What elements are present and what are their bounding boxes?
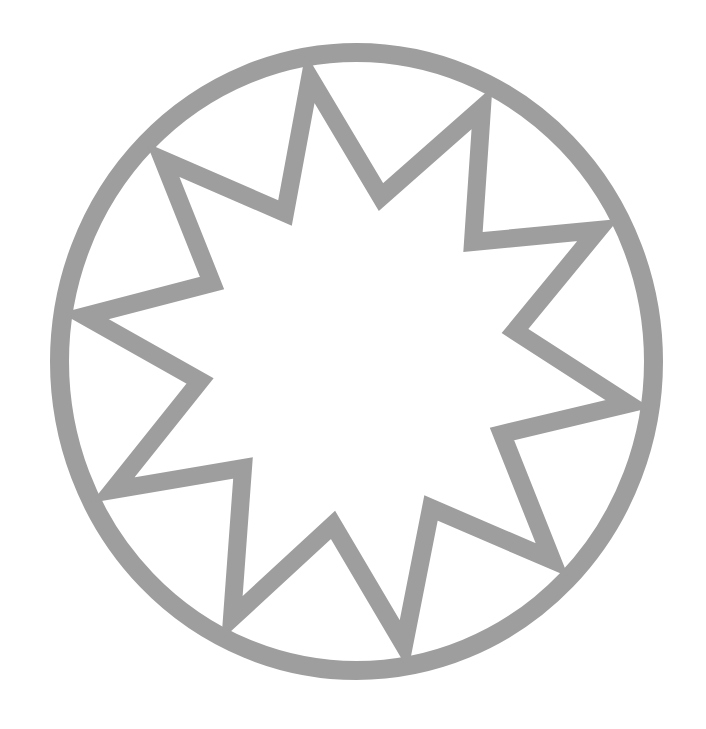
- ten-pointed-star-icon: [85, 78, 628, 645]
- star-in-circle-emblem: [0, 0, 706, 729]
- figure-canvas: [0, 0, 706, 729]
